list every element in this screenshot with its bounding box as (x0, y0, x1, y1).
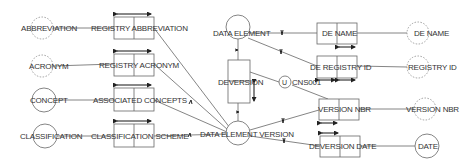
label-version-nbr-vt: VERSION NBR (406, 105, 459, 114)
label-registry-abbreviation: REGISTRY ABBREVIATION (91, 24, 188, 33)
constraint-u-symbol: U (282, 78, 287, 87)
label-concept: CONCEPT (30, 96, 68, 105)
role-marker-icon (236, 111, 239, 113)
label-date: DATE (418, 142, 438, 151)
label-associated-concepts: ASSOCIATED CONCEPTS (93, 96, 187, 105)
label-acronym: ACRONYM (29, 62, 69, 71)
label-version-nbr: VERSION NBR (318, 105, 371, 114)
role-marker-icon (235, 49, 238, 51)
label-classification: CLASSIFICATION (20, 132, 82, 141)
label-de-name: DE NAME (322, 29, 357, 38)
role-marker-icon (189, 100, 192, 104)
label-abbreviation: ABBREVIATION (21, 24, 77, 33)
label-de-name-vt: DE NAME (414, 29, 449, 38)
label-de-registry-id: DE REGISTRY ID (310, 63, 371, 72)
label-classification-scheme: CLASSIFICATION SCHEME (91, 132, 188, 141)
connector-dev-versionnbr (250, 110, 319, 130)
label-deversion-date: DEVERSION DATE (309, 142, 376, 151)
role-marker-icon (282, 118, 284, 123)
role-marker-icon (280, 49, 282, 54)
connector-de-deregistryid (248, 38, 317, 66)
label-deversion: DEVERSION (218, 78, 263, 87)
connector-u-versionnbr (292, 85, 328, 99)
label-registry-acronym: REGISTRY ACRONYM (99, 61, 179, 70)
label-registry-id-vt: REGISTRY ID (408, 63, 457, 72)
label-data-element: DATA ELEMENT (213, 29, 270, 38)
role-marker-icon (281, 30, 283, 35)
label-cns001: CNS001 (292, 78, 321, 87)
label-data-element-version: DATA ELEMENT VERSION (200, 130, 294, 139)
